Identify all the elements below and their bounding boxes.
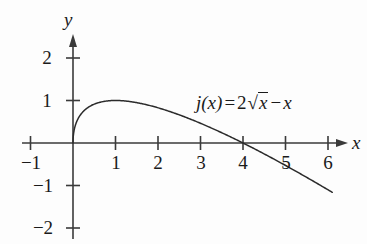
x-tick-label-4: 4 — [232, 153, 254, 172]
x-tick-label--1: −1 — [20, 153, 42, 172]
y-tick-label-1: 1 — [36, 91, 58, 110]
equals-sign: = — [222, 92, 237, 113]
coefficient: 2 — [237, 92, 247, 113]
function-equation-label: j(x)=2√x−x — [196, 92, 292, 112]
x-axis — [22, 139, 348, 147]
x-tick-label-2: 2 — [147, 153, 169, 172]
y-tick-label--2: −2 — [28, 218, 58, 237]
function-graph-figure: −1 1 2 3 4 5 6 2 1 −1 −2 y x j(x)=2√x−x — [0, 0, 367, 244]
radical-sign: √ — [248, 92, 258, 113]
function-name: j(x) — [196, 92, 222, 113]
function-curve — [73, 101, 332, 193]
x-axis-label: x — [352, 133, 360, 152]
x-tick-label-5: 5 — [275, 153, 297, 172]
y-axis-label: y — [64, 10, 72, 29]
x-tick-label-6: 6 — [317, 153, 339, 172]
square-root-icon: √x — [247, 92, 269, 112]
y-tick-label-2: 2 — [36, 48, 58, 67]
x-tick-label-1: 1 — [105, 153, 127, 172]
plot-canvas — [0, 0, 367, 244]
minus-sign: − — [268, 92, 283, 113]
x-tick-label-3: 3 — [190, 153, 212, 172]
radicand: x — [258, 92, 268, 112]
linear-term: x — [283, 92, 291, 113]
y-tick-label--1: −1 — [28, 176, 58, 195]
